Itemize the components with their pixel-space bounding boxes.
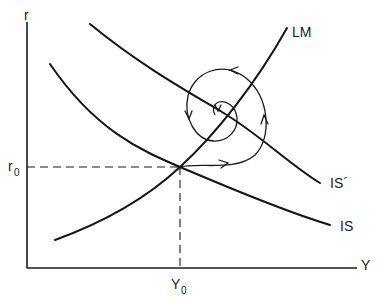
is-prime-label: IS´ <box>330 175 348 191</box>
is-prime-curve <box>90 24 320 183</box>
lm-curve <box>55 28 287 240</box>
is-curve <box>50 64 330 225</box>
arrow-left-icon <box>230 67 238 74</box>
r0-label: r 0 <box>8 158 20 178</box>
svg-text:r: r <box>8 158 13 174</box>
svg-text:0: 0 <box>14 167 20 178</box>
arrow-right-icon <box>219 160 228 168</box>
y0-label: Y 0 <box>171 276 187 296</box>
svg-text:Y: Y <box>171 276 181 292</box>
adjustment-spiral <box>180 69 266 167</box>
arrow-down-icon <box>185 111 192 119</box>
arrow-up-icon <box>261 115 268 124</box>
r-axis-label: r <box>24 7 29 23</box>
is-label: IS <box>340 218 353 234</box>
lm-label: LM <box>292 24 311 40</box>
is-lm-diagram: r Y r 0 Y 0 IS IS´ LM <box>0 0 381 303</box>
svg-text:0: 0 <box>181 285 187 296</box>
y-axis-label: Y <box>361 257 371 273</box>
